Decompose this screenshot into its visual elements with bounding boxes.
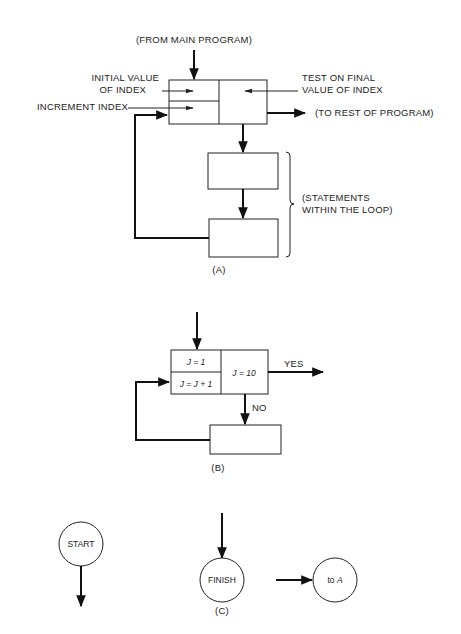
loop-body-box-b bbox=[210, 425, 281, 454]
caption-b: (B) bbox=[211, 462, 224, 473]
to-rest-of-program-label: (TO REST OF PROGRAM) bbox=[315, 107, 434, 118]
section-a: (FROM MAIN PROGRAM) INITIAL VALUE OF IND… bbox=[37, 34, 434, 275]
start-label: START bbox=[67, 539, 94, 549]
no-label: NO bbox=[252, 402, 267, 413]
caption-a: (A) bbox=[212, 264, 225, 275]
statements-label-2: WITHIN THE LOOP) bbox=[302, 204, 393, 215]
statements-label: (STATEMENTS bbox=[302, 192, 370, 203]
increment-statement: J = J + 1 bbox=[179, 379, 213, 389]
statements-brace bbox=[286, 152, 294, 257]
statement-box-1 bbox=[208, 153, 278, 189]
caption-c: (C) bbox=[215, 605, 229, 616]
increment-index-label: INCREMENT INDEX bbox=[37, 101, 128, 112]
flowchart-figure: (FROM MAIN PROGRAM) INITIAL VALUE OF IND… bbox=[0, 0, 461, 634]
statement-box-2 bbox=[209, 219, 278, 257]
initial-value-label: INITIAL VALUE bbox=[91, 72, 159, 83]
loop-control-box bbox=[169, 80, 267, 124]
yes-label: YES bbox=[284, 358, 304, 369]
section-c: START FINISH to A (C) bbox=[59, 513, 357, 616]
finish-label: FINISH bbox=[208, 575, 236, 585]
from-main-program-label: (FROM MAIN PROGRAM) bbox=[136, 34, 252, 45]
initial-value-label-2: OF INDEX bbox=[100, 84, 147, 95]
test-statement: J = 10 bbox=[231, 368, 256, 378]
section-b: J = 1 J = J + 1 J = 10 YES NO (B) bbox=[136, 312, 323, 473]
test-final-label: TEST ON FINAL bbox=[302, 72, 375, 83]
init-statement: J = 1 bbox=[186, 357, 206, 367]
connector-label: to A bbox=[327, 575, 342, 585]
test-final-label-2: VALUE OF INDEX bbox=[302, 84, 383, 95]
loop-back-arrow bbox=[135, 115, 209, 238]
